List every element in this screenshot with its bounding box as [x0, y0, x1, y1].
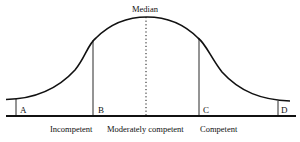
bell-curve — [6, 17, 290, 101]
segment-label-b: B — [98, 106, 104, 115]
competence-distribution-diagram: Median A B C D Incompetent Moderately co… — [0, 0, 300, 142]
median-label: Median — [132, 5, 158, 14]
category-label-moderately-competent: Moderately competent — [107, 125, 184, 134]
bell-curve-graphic — [0, 0, 300, 142]
segment-label-a: A — [20, 106, 27, 115]
category-label-competent: Competent — [200, 125, 237, 134]
segment-label-c: C — [203, 106, 209, 115]
category-label-incompetent: Incompetent — [50, 125, 92, 134]
segment-label-d: D — [281, 106, 288, 115]
